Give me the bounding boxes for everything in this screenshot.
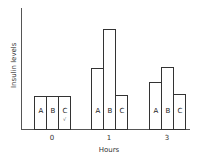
bar-series-label: C [174, 108, 186, 115]
x-axis-label: Hours [89, 146, 129, 154]
check-mark-annotation: √ [63, 116, 66, 122]
bar-series-label: C [116, 108, 128, 115]
insulin-bar-chart: Insulin levels Hours ABC0ABC1ABC3√ [0, 0, 197, 162]
x-tick-label: 0 [42, 134, 62, 142]
y-axis-label: Insulin levels [10, 43, 18, 88]
y-axis [21, 8, 22, 130]
x-tick-label: 3 [157, 134, 177, 142]
x-tick-label: 1 [99, 134, 119, 142]
bar-series-label: C [59, 108, 71, 115]
